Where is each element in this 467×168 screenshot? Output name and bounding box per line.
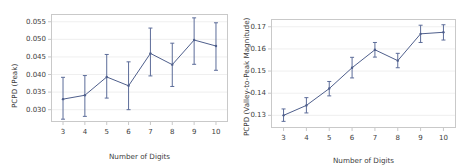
x-tick-label: 8 <box>396 134 400 142</box>
x-tick-label: 4 <box>83 128 87 136</box>
x-tick-label: 10 <box>212 128 221 136</box>
x-tick-label: 6 <box>350 134 354 142</box>
y-tick-label: 0.055 <box>0 18 46 26</box>
x-tick-label: 3 <box>61 128 65 136</box>
chart-panel-valley-to-peak: PCPD (Valley-to-Peak Magnitude) 0.130.14… <box>234 0 467 168</box>
y-tick-label: 0.030 <box>0 106 46 114</box>
x-tick-label: 10 <box>439 134 448 142</box>
x-tick-label: 6 <box>126 128 130 136</box>
y-tick-label: 0.040 <box>0 71 46 79</box>
x-tick-label: 8 <box>170 128 174 136</box>
y-tick-label: 0.13 <box>234 111 266 119</box>
y-tick-label: 0.050 <box>0 35 46 43</box>
x-tick-label: 3 <box>281 134 285 142</box>
x-tick-label: 7 <box>373 134 377 142</box>
plot-svg-right <box>234 0 467 168</box>
x-tick-label: 4 <box>304 134 308 142</box>
y-tick-label: 0.14 <box>234 89 266 97</box>
chart-panel-peak: PCPD (Peak) 0.0300.0350.0400.0450.0500.0… <box>0 0 234 168</box>
y-tick-label: 0.035 <box>0 88 46 96</box>
figure-container: PCPD (Peak) 0.0300.0350.0400.0450.0500.0… <box>0 0 467 168</box>
y-tick-label: 0.17 <box>234 23 266 31</box>
x-tick-label: 5 <box>327 134 331 142</box>
y-tick-label: 0.045 <box>0 53 46 61</box>
y-tick-label: 0.15 <box>234 67 266 75</box>
x-tick-label: 9 <box>418 134 422 142</box>
x-tick-label: 7 <box>148 128 152 136</box>
x-tick-label: 5 <box>104 128 108 136</box>
x-tick-label: 9 <box>192 128 196 136</box>
y-tick-label: 0.16 <box>234 45 266 53</box>
x-axis-label-right: Number of Digits <box>271 156 456 165</box>
x-axis-label-left: Number of Digits <box>51 152 228 161</box>
